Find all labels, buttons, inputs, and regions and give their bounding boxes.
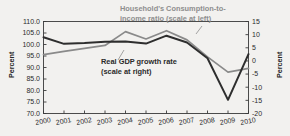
right-axis-title: Percent	[275, 51, 284, 78]
right-tick-label: -15	[252, 97, 262, 104]
left-tick-label: 105.0	[22, 29, 40, 36]
right-tick-label: 15	[252, 18, 260, 25]
left-tick-label: 100.0	[22, 41, 40, 48]
left-tick-label: 110.0	[23, 18, 40, 25]
left-tick-label: 90.0	[26, 64, 40, 71]
consumption-ratio-label-line1: Household's Consumption-to-	[120, 4, 226, 13]
left-tick-label: 95.0	[26, 52, 40, 59]
left-tick-label: 85.0	[26, 75, 40, 82]
right-tick-label: 10	[252, 31, 260, 38]
right-tick-label: -5	[252, 70, 258, 77]
right-tick-label: -10	[252, 84, 262, 91]
consumption-ratio-label-line2: income ratio (scale at left)	[120, 14, 212, 23]
left-tick-label: 80.0	[26, 87, 40, 94]
right-tick-label: 0	[252, 57, 256, 64]
gdp-growth-label-line1: Real GDP growth rate	[101, 57, 177, 66]
left-tick-label: 70.0	[26, 110, 40, 117]
left-axis-title: Percent	[7, 51, 16, 78]
chart-figure: Percent Percent 110.0105.0100.095.090.08…	[0, 0, 290, 136]
gdp-growth-label-line2: (scale at right)	[101, 67, 152, 76]
right-tick-label: 5	[252, 44, 256, 51]
line-chart: Percent Percent 110.0105.0100.095.090.08…	[0, 0, 290, 136]
left-tick-label: 75.0	[26, 98, 40, 105]
